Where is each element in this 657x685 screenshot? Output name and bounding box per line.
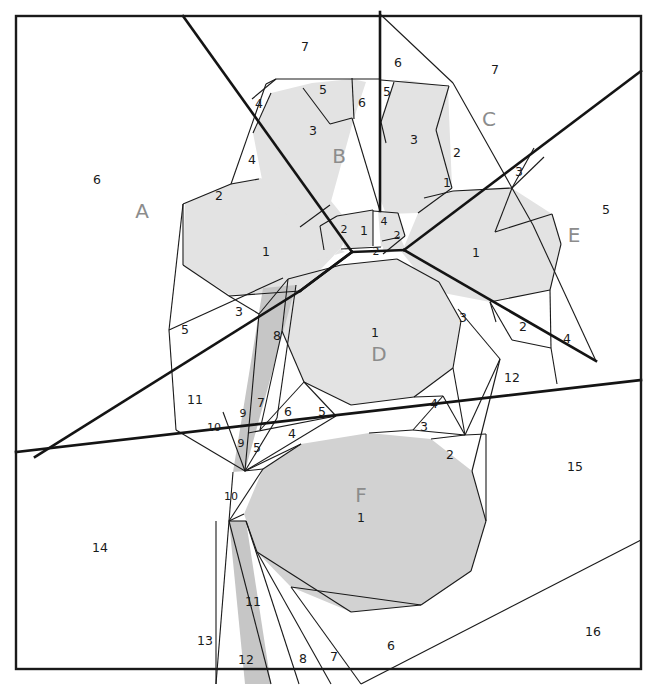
cell-label-A: A [135, 199, 149, 223]
region-number-4-10: 4 [248, 152, 256, 167]
region-number-3-27: 3 [459, 310, 467, 325]
region-number-6-6: 6 [394, 55, 402, 70]
region-number-3-23: 3 [235, 304, 243, 319]
region-number-3-38: 3 [420, 419, 428, 434]
region-number-8-25: 8 [273, 328, 281, 343]
region-number-11-31: 11 [187, 392, 203, 407]
region-number-7-1: 7 [301, 39, 309, 54]
region-number-2-11: 2 [453, 145, 461, 160]
region-number-5-15: 5 [602, 202, 610, 217]
region-number-4-29: 4 [563, 331, 571, 346]
region-number-3-12: 3 [515, 164, 523, 179]
region-number-2-22: 2 [373, 245, 380, 258]
region-number-7-51: 7 [330, 649, 338, 664]
region-number-1-16: 1 [262, 244, 270, 259]
region-number-6-52: 6 [387, 638, 395, 653]
region-number-1-17: 1 [472, 245, 480, 260]
region-number-9-33: 9 [240, 407, 247, 420]
cell-label-E: E [568, 223, 581, 247]
region-number-12-30: 12 [504, 370, 520, 385]
region-number-14-46: 14 [92, 540, 108, 555]
region-number-7-32: 7 [257, 395, 265, 410]
region-number-1-26: 1 [371, 325, 379, 340]
region-number-5-4: 5 [319, 82, 327, 97]
region-number-2-21: 2 [394, 229, 401, 242]
arrangement-svg: ABCDEF 677456653342312511214223581324121… [0, 0, 657, 685]
region-number-6-34: 6 [284, 404, 292, 419]
region-number-4-3: 4 [255, 96, 263, 111]
region-number-2-18: 2 [341, 223, 348, 236]
region-number-5-7: 5 [383, 84, 391, 99]
region-number-6-0: 6 [93, 172, 101, 187]
cell-label-B: B [332, 144, 346, 168]
region-number-13-48: 13 [197, 633, 213, 648]
region-number-16-53: 16 [585, 624, 601, 639]
region-number-2-14: 2 [215, 188, 223, 203]
region-number-1-45: 1 [357, 510, 365, 525]
geometry-figure: ABCDEF 677456653342312511214223581324121… [0, 0, 657, 685]
cell-label-F: F [355, 483, 367, 507]
region-number-15-43: 15 [567, 459, 583, 474]
cell-label-C: C [482, 107, 496, 131]
region-number-11-47: 11 [245, 594, 261, 609]
region-number-4-36: 4 [430, 396, 438, 411]
region-number-5-24: 5 [181, 322, 189, 337]
region-number-8-50: 8 [299, 651, 307, 666]
region-number-3-9: 3 [410, 132, 418, 147]
region-number-6-5: 6 [358, 95, 366, 110]
region-number-2-42: 2 [446, 447, 454, 462]
region-number-1-13: 1 [443, 175, 451, 190]
region-number-10-44: 10 [224, 490, 238, 503]
region-number-3-8: 3 [309, 123, 317, 138]
region-number-12-49: 12 [238, 652, 254, 667]
region-number-1-19: 1 [360, 223, 368, 238]
region-number-4-40: 4 [288, 426, 296, 441]
region-number-4-20: 4 [381, 215, 388, 228]
region-number-5-35: 5 [318, 404, 326, 419]
region-number-5-41: 5 [253, 440, 261, 455]
region-number-10-37: 10 [207, 421, 221, 434]
region-number-9-39: 9 [238, 437, 245, 450]
cell-label-D: D [371, 342, 386, 366]
region-number-2-28: 2 [519, 319, 527, 334]
region-number-7-2: 7 [491, 62, 499, 77]
